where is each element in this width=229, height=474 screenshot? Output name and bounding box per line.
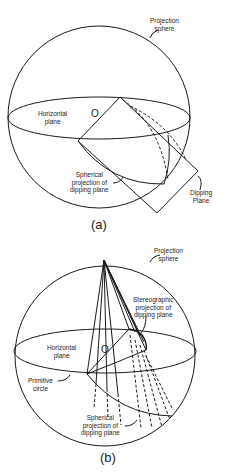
spherical-projection-arc-b — [87, 374, 172, 416]
label-line: Spherical — [81, 414, 120, 422]
caption-b: (b) — [100, 450, 116, 465]
label-horizontal-plane-b: Horizontal plane — [47, 344, 76, 359]
label-projection-sphere-b: Projection sphere — [154, 247, 183, 262]
label-line: projection of — [81, 422, 120, 430]
label-line: Plane — [190, 197, 212, 205]
arrow-primitive-circle — [58, 375, 70, 381]
dashed-arc-a1 — [123, 100, 168, 180]
label-line: Primitive — [28, 377, 53, 385]
label-line: dipping plane — [133, 311, 173, 319]
label-primitive-circle: Primitive circle — [28, 377, 53, 392]
origin-label-b: O — [101, 344, 109, 355]
label-line: sphere — [150, 25, 179, 33]
label-spherical-projection-b: Spherical projection of dipping plane — [81, 414, 120, 437]
label-line: Spherical — [70, 171, 109, 179]
label-stereographic-projection: Stereographic projection of dipping plan… — [133, 296, 173, 319]
label-line: Dipping — [190, 189, 212, 197]
label-line: dipping plane — [81, 429, 120, 437]
caption-a: (a) — [91, 217, 107, 232]
label-spherical-projection-a: Spherical projection of dipping plane — [70, 171, 109, 194]
label-line: Stereographic — [133, 296, 173, 304]
origin-label-a: O — [91, 108, 99, 119]
label-dipping-plane: Dipping Plane — [190, 189, 212, 204]
dip-plane-edge-b — [87, 350, 146, 374]
label-line: projection of — [70, 179, 109, 187]
arrow-dipping-plane — [198, 176, 201, 190]
label-line: circle — [28, 385, 53, 393]
horizontal-plane-a — [8, 97, 190, 139]
label-line: projection of — [133, 304, 173, 312]
arrow-spherical-projection-b — [125, 420, 137, 426]
label-line: Projection — [154, 247, 183, 255]
label-line: sphere — [154, 255, 183, 263]
ray-line — [87, 260, 104, 374]
label-line: plane — [47, 352, 76, 360]
diagram-canvas — [0, 0, 229, 474]
label-line: Horizontal — [38, 110, 67, 118]
label-line: Horizontal — [47, 344, 76, 352]
label-projection-sphere-a: Projection sphere — [150, 17, 179, 32]
label-line: Projection — [150, 17, 179, 25]
label-line: dipping plane — [70, 186, 109, 194]
label-line: plane — [38, 118, 67, 126]
label-horizontal-plane-a: Horizontal plane — [38, 110, 67, 125]
